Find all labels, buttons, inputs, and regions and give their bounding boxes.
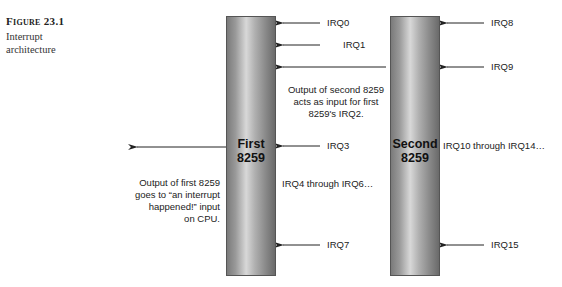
note-cpu-output: Output of first 8259 goes to “an interru… [120, 177, 220, 225]
first-chip-label: First 8259 [227, 137, 275, 165]
label-irq10-14: IRQ10 through IRQ14… [443, 140, 545, 151]
first-8259-chip: First 8259 [226, 16, 276, 276]
label-irq3: IRQ3 [327, 140, 349, 151]
second-chip-label-line1: Second [391, 137, 439, 151]
first-chip-label-line1: First [227, 137, 275, 151]
note-cascade-line: 8259's IRQ2. [284, 108, 388, 120]
note-cpu-output-line: happened!” input [120, 201, 220, 213]
second-8259-chip: Second 8259 [390, 16, 440, 276]
label-irq8: IRQ8 [491, 17, 513, 28]
label-irq9: IRQ9 [491, 61, 513, 72]
note-cpu-output-line: on CPU. [120, 213, 220, 225]
note-cascade-line: Output of second 8259 [284, 84, 388, 96]
second-chip-label-line2: 8259 [391, 151, 439, 165]
note-cpu-output-line: goes to “an interrupt [120, 189, 220, 201]
label-irq4-6: IRQ4 through IRQ6… [282, 178, 373, 189]
label-irq15: IRQ15 [491, 239, 518, 250]
label-irq7: IRQ7 [327, 239, 349, 250]
label-irq1: IRQ1 [343, 39, 365, 50]
second-chip-label: Second 8259 [391, 137, 439, 165]
first-chip-label-line2: 8259 [227, 151, 275, 165]
note-cascade: Output of second 8259 acts as input for … [284, 84, 388, 120]
label-irq0: IRQ0 [327, 17, 349, 28]
note-cpu-output-line: Output of first 8259 [120, 177, 220, 189]
note-cascade-line: acts as input for first [284, 96, 388, 108]
